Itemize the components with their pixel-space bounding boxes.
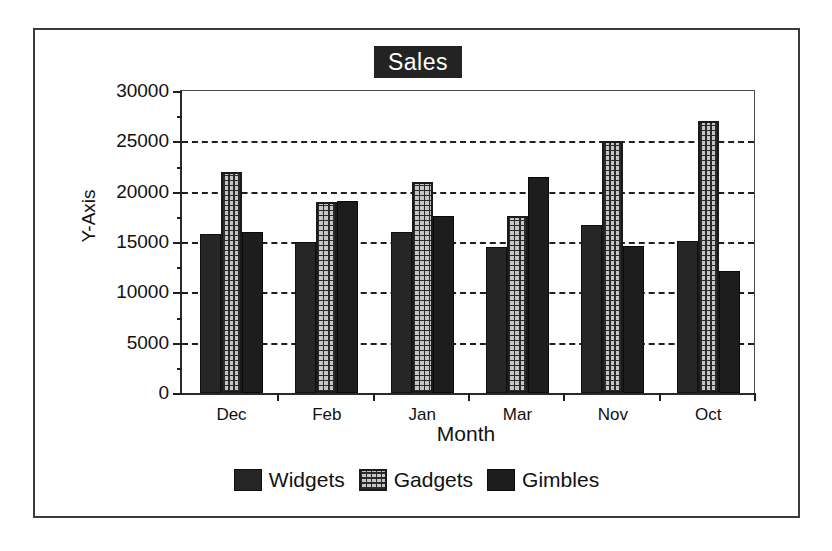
- bar-gadgets-oct: [698, 121, 719, 393]
- x-axis-tick: [563, 393, 565, 401]
- bar-widgets-oct: [677, 241, 698, 393]
- legend-label-gadgets: Gadgets: [394, 468, 473, 492]
- plot-area: 050001000015000200002500030000DecFebJanM…: [180, 90, 755, 395]
- bar-gimbles-nov: [623, 246, 644, 393]
- bar-gimbles-feb: [337, 201, 358, 393]
- y-axis-minor-tick: [177, 167, 182, 169]
- x-axis-tick: [373, 393, 375, 401]
- legend-swatch-gadgets: [359, 469, 387, 491]
- x-axis-tick: [754, 393, 756, 401]
- y-axis-minor-tick: [177, 116, 182, 118]
- legend-swatch-widgets: [234, 469, 262, 491]
- y-axis-minor-tick: [177, 217, 182, 219]
- bar-widgets-nov: [581, 225, 602, 393]
- y-axis-tick-label: 15000: [116, 231, 169, 253]
- bar-widgets-jan: [391, 232, 412, 393]
- gridline: [182, 343, 754, 345]
- y-axis-title: Y-Axis: [78, 156, 100, 276]
- bar-gimbles-oct: [719, 271, 740, 393]
- bar-widgets-mar: [486, 247, 507, 393]
- y-axis-tick-label: 10000: [116, 281, 169, 303]
- legend-label-widgets: Widgets: [269, 468, 345, 492]
- y-axis-tick: [173, 192, 182, 194]
- chart-title-box: Sales: [374, 46, 462, 78]
- plot-inner: 050001000015000200002500030000DecFebJanM…: [182, 91, 754, 393]
- y-axis-tick-label: 25000: [116, 130, 169, 152]
- gridline: [182, 242, 754, 244]
- chart-legend: WidgetsGadgetsGimbles: [35, 468, 798, 492]
- legend-label-gimbles: Gimbles: [522, 468, 599, 492]
- x-axis-tick: [659, 393, 661, 401]
- y-axis-minor-tick: [177, 267, 182, 269]
- y-axis-tick-label: 20000: [116, 181, 169, 203]
- bar-gadgets-dec: [221, 172, 242, 393]
- chart-title: Sales: [388, 51, 448, 74]
- gridline: [182, 292, 754, 294]
- legend-swatch-gimbles: [487, 469, 515, 491]
- bar-gadgets-mar: [507, 216, 528, 393]
- y-axis-minor-tick: [177, 318, 182, 320]
- y-axis-tick: [173, 242, 182, 244]
- y-axis-tick-label: 30000: [116, 80, 169, 102]
- legend-item-widgets[interactable]: Widgets: [234, 468, 345, 492]
- chart-frame: Sales Y-Axis 050001000015000200002500030…: [33, 28, 800, 518]
- bar-gimbles-jan: [433, 216, 454, 393]
- y-axis-tick: [173, 393, 182, 395]
- bar-widgets-dec: [200, 234, 221, 393]
- bar-gadgets-feb: [316, 202, 337, 393]
- y-axis-tick-label: 5000: [127, 332, 169, 354]
- bar-gadgets-jan: [412, 182, 433, 393]
- y-axis-tick: [173, 343, 182, 345]
- y-axis-minor-tick: [177, 368, 182, 370]
- legend-item-gadgets[interactable]: Gadgets: [359, 468, 473, 492]
- bar-gimbles-mar: [528, 177, 549, 393]
- bar-gimbles-dec: [242, 232, 263, 393]
- y-axis-tick: [173, 292, 182, 294]
- y-axis-tick-label: 0: [158, 382, 169, 404]
- legend-item-gimbles[interactable]: Gimbles: [487, 468, 599, 492]
- y-axis-tick: [173, 91, 182, 93]
- x-axis-tick: [468, 393, 470, 401]
- bar-widgets-feb: [295, 242, 316, 393]
- gridline: [182, 192, 754, 194]
- bar-gadgets-nov: [602, 141, 623, 393]
- y-axis-tick: [173, 141, 182, 143]
- x-axis-title: Month: [180, 422, 752, 446]
- gridline: [182, 141, 754, 143]
- x-axis-tick: [277, 393, 279, 401]
